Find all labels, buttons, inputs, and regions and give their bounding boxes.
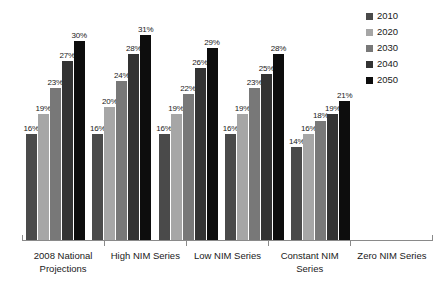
bar: [38, 114, 49, 240]
legend-label: 2040: [377, 59, 398, 69]
legend-swatch-icon: [366, 13, 373, 20]
bar-value-label: 16%: [90, 124, 105, 133]
bar-value-label: 19%: [35, 104, 50, 113]
bar-slot: 28%: [273, 8, 284, 240]
bar-group: 16%19%22%26%29%: [155, 8, 221, 240]
bar: [207, 48, 218, 240]
bar-slot: 19%: [38, 8, 49, 240]
bar-group: 14%16%18%19%21%: [288, 8, 354, 240]
bar-value-label: 23%: [47, 78, 62, 87]
bar-value-label: 16%: [23, 124, 38, 133]
bar-slot: 24%: [116, 8, 127, 240]
legend-label: 2050: [377, 75, 398, 85]
bar-slot: 22%: [183, 8, 194, 240]
x-axis-left-cap: [22, 235, 23, 241]
bar: [249, 88, 260, 240]
bar-slot: 23%: [249, 8, 260, 240]
bar-slot: 16%: [92, 8, 103, 240]
legend-label: 2030: [377, 43, 398, 53]
bar-slot: 29%: [207, 8, 218, 240]
bar-group: 16%19%23%25%28%: [221, 8, 287, 240]
x-axis-line: [22, 240, 433, 241]
bar-slot: 19%: [237, 8, 248, 240]
legend-label: 2020: [377, 27, 398, 37]
legend-swatch-icon: [366, 45, 373, 52]
bar-value-label: 19%: [235, 104, 250, 113]
bar-slot: 31%: [140, 8, 151, 240]
category-label: 2008 National Projections: [22, 249, 104, 275]
bar-slot: 28%: [128, 8, 139, 240]
bar: [116, 81, 127, 240]
bar-value-label: 16%: [223, 124, 238, 133]
category-label: Low NIM Series: [186, 249, 268, 275]
bar-slot: 25%: [261, 8, 272, 240]
legend-swatch-icon: [366, 29, 373, 36]
bar: [128, 54, 139, 240]
bar-value-label: 27%: [59, 51, 74, 60]
bar: [50, 88, 61, 240]
bar-value-label: 29%: [204, 38, 219, 47]
bar-chart: 16%19%23%27%30%16%20%24%28%31%16%19%22%2…: [0, 0, 439, 290]
category-label: High NIM Series: [104, 249, 186, 275]
x-axis-tick-2: [186, 240, 187, 246]
bar-group: 16%20%24%28%31%: [88, 8, 154, 240]
legend-item[interactable]: 2020: [366, 27, 398, 37]
bar: [273, 54, 284, 240]
bar-value-label: 25%: [259, 64, 274, 73]
bar-slot: 16%: [26, 8, 37, 240]
bar: [159, 134, 170, 240]
bar: [104, 107, 115, 240]
bar-value-label: 21%: [337, 91, 352, 100]
bar-slot: 16%: [225, 8, 236, 240]
legend-swatch-icon: [366, 77, 373, 84]
bar: [261, 74, 272, 240]
bar-value-label: 31%: [138, 25, 153, 34]
x-axis-tick-3: [268, 240, 269, 246]
bar-value-label: 16%: [301, 124, 316, 133]
legend-label: 2010: [377, 11, 398, 21]
bar-value-label: 22%: [180, 84, 195, 93]
bar: [195, 68, 206, 240]
legend-swatch-icon: [366, 61, 373, 68]
bar-value-label: 19%: [325, 104, 340, 113]
bar: [291, 147, 302, 240]
legend-item[interactable]: 2030: [366, 43, 398, 53]
plot-area: 16%19%23%27%30%16%20%24%28%31%16%19%22%2…: [22, 8, 354, 240]
bar-slot: 20%: [104, 8, 115, 240]
bar-value-label: 28%: [271, 44, 286, 53]
bar-slot: 27%: [62, 8, 73, 240]
bar: [339, 101, 350, 240]
x-axis-tick-4: [350, 240, 351, 246]
bar: [183, 94, 194, 240]
legend-item[interactable]: 2050: [366, 75, 398, 85]
category-label: Constant NIM Series: [269, 249, 351, 275]
bar: [62, 61, 73, 240]
bar: [225, 134, 236, 240]
legend-item[interactable]: 2040: [366, 59, 398, 69]
bar: [303, 134, 314, 240]
bar: [327, 114, 338, 240]
bar: [92, 134, 103, 240]
legend-item[interactable]: 2010: [366, 11, 398, 21]
bar: [140, 35, 151, 240]
bar-slot: 21%: [339, 8, 350, 240]
x-axis-right-cap: [432, 235, 433, 241]
bar: [315, 121, 326, 240]
bar-value-label: 24%: [114, 71, 129, 80]
bar-value-label: 19%: [168, 104, 183, 113]
bar-slot: 18%: [315, 8, 326, 240]
x-axis-category-labels: 2008 National ProjectionsHigh NIM Series…: [22, 249, 433, 275]
bar: [74, 41, 85, 240]
bar-value-label: 30%: [71, 31, 86, 40]
bar-value-label: 14%: [289, 137, 304, 146]
bar: [26, 134, 37, 240]
bar-slot: 23%: [50, 8, 61, 240]
category-label: Zero NIM Series: [351, 249, 433, 275]
chart-legend: 20102020203020402050: [366, 11, 398, 85]
bar-slot: 19%: [327, 8, 338, 240]
bar-value-label: 20%: [102, 97, 117, 106]
bar-slot: 16%: [303, 8, 314, 240]
bar-value-label: 28%: [126, 44, 141, 53]
bar-slot: 30%: [74, 8, 85, 240]
bar-groups: 16%19%23%27%30%16%20%24%28%31%16%19%22%2…: [22, 8, 354, 240]
